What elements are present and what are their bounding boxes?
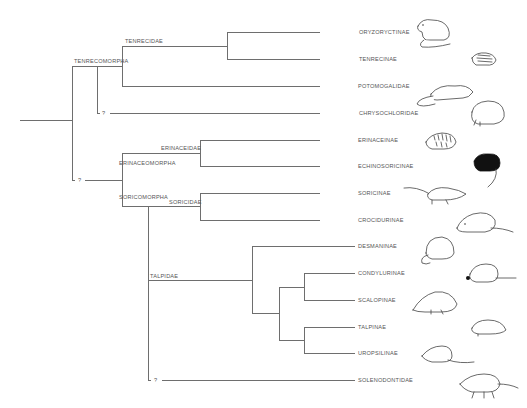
star-nosed-mole-icon [464, 260, 518, 292]
uncertain-mark: ? [102, 110, 105, 116]
new-world-mole-icon [411, 288, 461, 320]
solenodon-icon [458, 370, 520, 404]
clade-label-tenrecomorpha: TENRECOMORPHA [74, 58, 129, 64]
taxon-label: ERINACEINAE [358, 137, 398, 143]
white-toothed-shrew-icon [455, 208, 515, 242]
old-world-mole-icon [468, 318, 508, 342]
taxon-label: TALPINAE [358, 324, 386, 330]
uncertain-mark: ? [78, 177, 81, 183]
taxon-label: CHRYSOCHLORIDAE [359, 110, 418, 116]
taxon-label: UROPSILINAE [358, 350, 398, 356]
taxon-label: POTOMOGALIDAE [358, 83, 410, 89]
gymnure-icon [472, 151, 504, 195]
taxon-label: ORYZORYCTINAE [359, 29, 410, 35]
streaked-tenrec-icon [470, 50, 498, 74]
taxon-label: DESMANINAE [358, 243, 397, 249]
taxon-label: CROCIDURINAE [358, 217, 404, 223]
clade-label-soricidae: SORICIDAE [169, 199, 202, 205]
oryzoryctine-tenrec-icon [414, 14, 454, 54]
clade-label-tenrecidae: TENRECIDAE [125, 38, 163, 44]
clade-label-erinaceomorpha: ERINACEOMORPHA [119, 160, 176, 166]
taxon-label: TENRECINAE [359, 56, 397, 62]
hedgehog-icon [424, 130, 458, 156]
desman-icon [418, 233, 458, 271]
clade-label-soricomorpha: SORICOMORPHA [119, 194, 168, 200]
clade-label-talpidae: TALPIDAE [150, 273, 178, 279]
taxon-label: SOLENODONTIDAE [358, 377, 413, 383]
taxon-label: ECHINOSORICINAE [358, 163, 414, 169]
golden-mole-icon [468, 98, 508, 132]
taxon-label: SORICINAE [358, 190, 391, 196]
taxon-label: CONDYLURINAE [358, 270, 405, 276]
uncertain-mark: ? [154, 377, 157, 383]
taxon-label: SCALOPINAE [358, 297, 396, 303]
clade-label-erinaceidae: ERINACEIDAE [161, 145, 201, 151]
